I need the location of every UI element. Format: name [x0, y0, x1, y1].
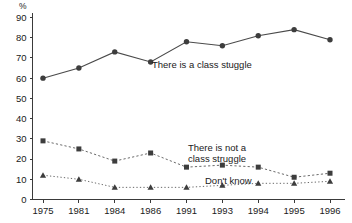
y-tick-label: 20: [16, 153, 27, 164]
data-point-marker: [40, 75, 45, 80]
x-tick-label: 1986: [140, 205, 161, 216]
series-line: [43, 141, 330, 177]
x-tick-label: 1993: [212, 205, 233, 216]
y-tick-label: 90: [16, 12, 27, 23]
data-series-group: [40, 27, 333, 190]
data-point-marker: [291, 180, 297, 186]
series-3: [40, 172, 333, 190]
chart-canvas: 0102030405060708090% 1975198119841986199…: [0, 0, 352, 223]
x-tick-label: 1996: [319, 205, 340, 216]
data-point-marker: [220, 43, 225, 48]
data-point-marker: [41, 138, 46, 143]
x-tick-label: 1991: [176, 205, 197, 216]
series-line: [43, 30, 330, 79]
y-axis: 0102030405060708090%: [16, 1, 33, 205]
data-point-marker: [291, 27, 296, 32]
data-point-marker: [184, 39, 189, 44]
line-chart: 0102030405060708090% 1975198119841986199…: [0, 0, 352, 223]
x-tick-label: 1994: [248, 205, 269, 216]
data-point-marker: [76, 65, 81, 70]
y-tick-label: 40: [16, 113, 27, 124]
data-point-marker: [148, 184, 154, 190]
y-tick-label: 70: [16, 52, 27, 63]
y-tick-label: 60: [16, 73, 27, 84]
data-point-marker: [184, 165, 189, 170]
x-tick-label: 1984: [104, 205, 125, 216]
data-point-marker: [112, 159, 117, 164]
x-tick-label: 1995: [284, 205, 305, 216]
x-axis: 197519811984198619911993199419951996: [32, 200, 345, 216]
x-tick-label: 1981: [68, 205, 89, 216]
series-inline-label: class struggle: [188, 153, 246, 164]
series-inline-label: Don't know: [205, 175, 252, 186]
y-axis-unit-label: %: [19, 1, 27, 11]
data-point-marker: [183, 184, 189, 190]
y-tick-label: 50: [16, 93, 27, 104]
data-point-marker: [112, 49, 117, 54]
data-point-marker: [148, 150, 153, 155]
data-point-marker: [328, 171, 333, 176]
series-inline-label: There is not a: [188, 142, 247, 153]
series-1: [40, 27, 332, 81]
series-inline-label: There is a class stuggle: [152, 59, 252, 70]
y-tick-label: 80: [16, 32, 27, 43]
data-point-marker: [256, 165, 261, 170]
data-point-marker: [256, 33, 261, 38]
data-point-marker: [40, 172, 46, 178]
x-tick-label: 1975: [32, 205, 53, 216]
data-point-marker: [292, 175, 297, 180]
y-tick-label: 0: [21, 194, 26, 205]
data-point-marker: [76, 176, 82, 182]
series-2: [41, 138, 333, 179]
data-point-marker: [76, 146, 81, 151]
data-point-marker: [327, 37, 332, 42]
y-tick-label: 10: [16, 174, 27, 185]
y-tick-label: 30: [16, 133, 27, 144]
series-annotations: There is a class stuggleThere is not acl…: [152, 59, 252, 186]
data-point-marker: [327, 178, 333, 184]
